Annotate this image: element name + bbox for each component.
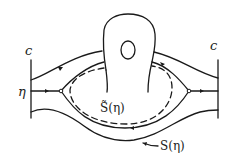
inner-loop-upper-right	[152, 62, 189, 91]
arrow-upper-left	[58, 67, 63, 71]
upper-streamline-left	[31, 51, 102, 80]
label-s-eta: S(η)	[160, 139, 185, 153]
label-eta: η	[18, 84, 26, 99]
arrow-lower-streamline	[130, 126, 134, 130]
right-saddle-node	[187, 89, 191, 93]
upper-streamline-right	[154, 52, 218, 78]
obstacle-blob	[104, 14, 156, 92]
obstacle-left-edge	[106, 70, 107, 92]
arrow-eta-right	[200, 89, 204, 93]
label-s-tilde-eta: S̃(η)	[100, 100, 125, 115]
dashed-contour-s-tilde	[70, 66, 172, 124]
label-c-right: c	[210, 38, 218, 53]
flow-diagram: c c η S̃(η) S(η)	[0, 0, 231, 166]
arrow-eta-left	[45, 89, 49, 93]
left-saddle-node	[59, 89, 63, 93]
label-c-left: c	[25, 43, 33, 58]
obstacle-hole	[121, 41, 135, 59]
inner-loop-upper-left	[61, 62, 104, 91]
